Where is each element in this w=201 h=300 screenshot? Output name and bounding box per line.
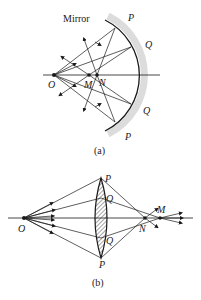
label-O-b: O — [18, 223, 25, 234]
label-M-b: M — [156, 204, 166, 215]
label-P-top-b: P — [104, 173, 111, 184]
label-P-bottom-a: P — [124, 131, 131, 142]
optics-diagram: Mirror O M N P Q Q P (a) — [0, 0, 201, 300]
point-M-b — [158, 216, 162, 220]
label-Q-top-a: Q — [145, 39, 153, 50]
figure-b: O N M P Q Q P (b) — [8, 173, 193, 289]
label-N-a: N — [98, 77, 107, 88]
label-O-a: O — [48, 79, 55, 90]
point-O-a — [52, 73, 56, 77]
convex-lens — [95, 178, 107, 258]
point-M-a — [87, 73, 91, 77]
figure-a: Mirror O M N P Q Q P (a) — [43, 12, 160, 157]
label-P-bottom-b: P — [98, 259, 105, 270]
label-M-a: M — [83, 79, 93, 90]
label-Q-bottom-a: Q — [143, 105, 151, 116]
label-N-b: N — [138, 223, 147, 234]
label-Q-bottom-b: Q — [106, 235, 114, 246]
mirror-label: Mirror — [63, 13, 90, 24]
caption-a: (a) — [94, 145, 105, 157]
point-N-b — [143, 216, 147, 220]
label-Q-top-b: Q — [106, 193, 114, 204]
label-P-top-a: P — [127, 12, 134, 23]
caption-b: (b) — [92, 277, 104, 289]
point-O-b — [22, 216, 26, 220]
